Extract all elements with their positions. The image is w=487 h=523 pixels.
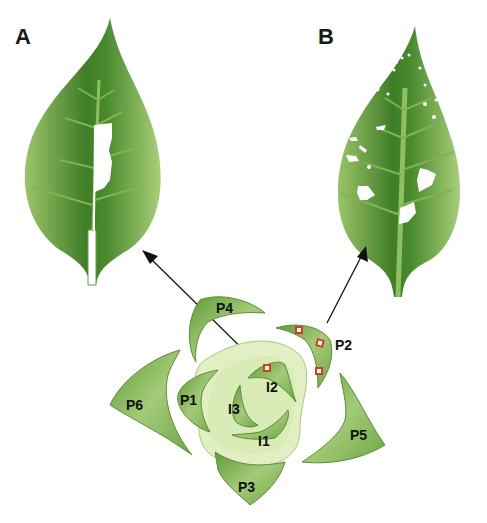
leaf-b xyxy=(338,26,460,297)
marker-i2 xyxy=(264,365,270,371)
label-p4: P4 xyxy=(216,300,233,316)
label-i1: I1 xyxy=(258,433,270,449)
arrow-to-leaf-b xyxy=(327,246,368,323)
organ-p5 xyxy=(302,373,385,463)
label-i3: I3 xyxy=(228,401,240,417)
label-p3: P3 xyxy=(238,479,255,495)
marker-p2-2 xyxy=(316,339,323,346)
label-p1: P1 xyxy=(180,392,197,408)
diagram-canvas: P4 P2 P6 P1 I2 I3 I1 P5 P3 xyxy=(0,0,487,523)
label-p2: P2 xyxy=(335,337,352,353)
label-p5: P5 xyxy=(350,427,367,443)
label-p6: P6 xyxy=(126,397,143,413)
marker-p2-1 xyxy=(296,327,302,333)
marker-p2-3 xyxy=(316,368,322,374)
leaf-a xyxy=(25,18,161,285)
label-i2: I2 xyxy=(266,379,278,395)
